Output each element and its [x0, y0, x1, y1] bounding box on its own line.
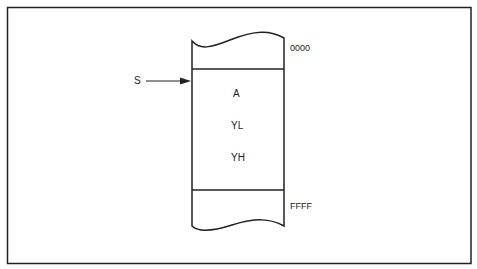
memory-block-outline — [192, 32, 284, 230]
stack-entry-yh: YH — [231, 152, 245, 163]
stack-entry-yl: YL — [231, 120, 243, 131]
stack-entry-a: A — [233, 88, 240, 99]
figure-border — [8, 8, 472, 264]
stack-pointer-label: S — [134, 75, 141, 86]
pointer-arrow-head — [180, 78, 191, 85]
bottom-address-label: FFFF — [290, 201, 312, 211]
stack-diagram — [0, 0, 477, 269]
top-address-label: 0000 — [290, 43, 310, 53]
